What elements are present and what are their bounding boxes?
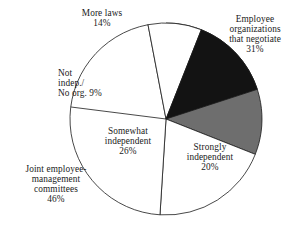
pie-label-more-laws-line1: More laws <box>52 8 152 18</box>
pie-label-not-independent-no-organization: Not indep./ No org. 9% <box>58 68 136 98</box>
pie-label-somewhat-independent-line2: independent <box>80 136 176 146</box>
pie-label-employee-organizations-line2: organizations <box>208 24 302 34</box>
pie-label-not-independent-line1: Not <box>58 68 136 78</box>
pie-label-joint-line2: management <box>0 174 112 184</box>
pie-label-joint-line3: committees <box>0 184 112 194</box>
pie-chart-figure: More laws 14% Employee organizations tha… <box>0 0 303 230</box>
pie-label-strongly-independent: Strongly independent 20% <box>168 142 252 172</box>
pie-label-employee-organizations: Employee organizations that negotiate 31… <box>208 14 302 54</box>
pie-label-strongly-independent-line1: Strongly <box>168 142 252 152</box>
pie-label-employee-organizations-line1: Employee <box>208 14 302 24</box>
pie-label-somewhat-independent-line1: Somewhat <box>80 126 176 136</box>
pie-label-not-independent-value: No org. 9% <box>58 88 136 98</box>
pie-label-more-laws: More laws 14% <box>52 8 152 28</box>
pie-label-not-independent-line2: indep./ <box>58 78 136 88</box>
pie-label-more-laws-value: 14% <box>52 18 152 28</box>
pie-label-somewhat-independent: Somewhat independent 26% <box>80 126 176 156</box>
pie-label-strongly-independent-line2: independent <box>168 152 252 162</box>
pie-label-strongly-independent-value: 20% <box>168 162 252 172</box>
pie-label-employee-organizations-value: 31% <box>208 44 302 54</box>
pie-label-joint-value: 46% <box>0 194 112 204</box>
pie-label-joint-employee-management-committees: Joint employee- management committees 46… <box>0 164 112 204</box>
pie-label-somewhat-independent-value: 26% <box>80 146 176 156</box>
pie-label-employee-organizations-line3: that negotiate <box>208 34 302 44</box>
pie-label-joint-line1: Joint employee- <box>0 164 112 174</box>
